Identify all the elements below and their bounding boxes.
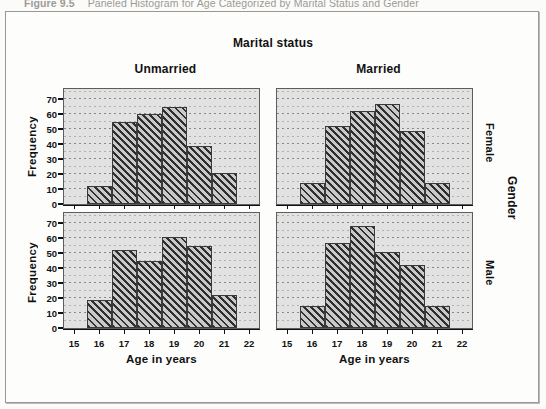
histogram-bar	[425, 306, 450, 328]
x-axis-tick-mark	[149, 205, 150, 209]
gender-title: Gender	[505, 176, 519, 246]
histogram-bar	[300, 183, 325, 204]
y-axis-top: 010203040506070	[23, 88, 63, 205]
histogram-bar	[375, 252, 400, 328]
y-axis-tick-label: 70	[46, 218, 57, 229]
x-axis-tick-mark	[387, 205, 388, 209]
figure-number: Figure 9.5	[24, 0, 75, 9]
x-axis-tick-mark	[462, 205, 463, 209]
x-axis-tick-mark	[199, 205, 200, 209]
histogram-bar	[375, 104, 400, 204]
bars-unmarried-male	[64, 213, 259, 328]
x-axis-tick-mark	[174, 205, 175, 209]
x-axis-tick-mark	[249, 329, 250, 334]
panel-unmarried-male	[63, 212, 260, 329]
x-axis-tick-label: 16	[307, 338, 318, 349]
y-axis-tick-label: 0	[52, 199, 57, 210]
histogram-bar	[162, 107, 187, 204]
x-axis-tick-label: 17	[332, 338, 343, 349]
x-axis-tick-mark	[174, 329, 175, 334]
histogram-bar	[325, 243, 350, 328]
x-axis-right: 1516171819202122	[276, 329, 473, 355]
x-axis-tick-label: 22	[244, 338, 255, 349]
y-axis-tick-label: 70	[46, 94, 57, 105]
panel-married-male	[276, 212, 473, 329]
x-axis-tick-label: 18	[144, 338, 155, 349]
histogram-bar	[212, 295, 237, 328]
x-axis-tick-mark	[387, 329, 388, 334]
panel-unmarried-female	[63, 88, 260, 205]
x-axis-tick-mark	[437, 205, 438, 209]
histogram-bar	[212, 173, 237, 204]
x-axis-tick-mark	[337, 205, 338, 209]
bars-married-male	[277, 213, 472, 328]
x-axis-tick-mark	[312, 205, 313, 209]
y-axis-tick-label: 60	[46, 233, 57, 244]
histogram-bar	[112, 250, 137, 328]
column-header-married: Married	[276, 62, 481, 76]
histogram-bar	[87, 300, 112, 328]
histogram-bar	[350, 226, 375, 328]
histogram-bar	[187, 246, 212, 328]
x-axis-tick-mark	[462, 329, 463, 334]
x-axis-tick-mark	[199, 329, 200, 334]
x-axis-tick-label: 21	[219, 338, 230, 349]
figure-title: Paneled Histogram for Age Categorized by…	[88, 0, 419, 9]
y-axis-tick-label: 50	[46, 248, 57, 259]
bars-married-female	[277, 89, 472, 204]
x-axis-tick-mark	[249, 205, 250, 209]
x-axis-tick-mark	[124, 205, 125, 209]
x-axis-label-left: Age in years	[63, 353, 260, 365]
y-axis-tick-label: 60	[46, 109, 57, 120]
x-axis-label-right: Age in years	[276, 353, 473, 365]
x-axis-tick-label: 19	[382, 338, 393, 349]
x-axis-tick-mark	[412, 329, 413, 334]
x-axis-tick-mark	[74, 329, 75, 334]
x-axis-tick-mark	[99, 329, 100, 334]
x-axis-tick-label: 19	[169, 338, 180, 349]
histogram-bar	[87, 186, 112, 204]
x-axis-tick-mark	[362, 205, 363, 209]
histogram-bar	[300, 306, 325, 328]
y-axis-tick-label: 30	[46, 278, 57, 289]
panel-married-female	[276, 88, 473, 205]
y-axis-tick-label: 50	[46, 124, 57, 135]
x-axis-tick-mark	[224, 329, 225, 334]
x-axis-line	[63, 205, 260, 206]
histogram-bar	[137, 261, 162, 328]
y-axis-tick-label: 30	[46, 154, 57, 165]
y-axis-tick-label: 0	[52, 323, 57, 334]
histogram-bar	[325, 126, 350, 204]
histogram-bar	[112, 122, 137, 204]
x-axis-line	[63, 329, 260, 330]
x-axis-tick-mark	[312, 329, 313, 334]
x-axis-tick-mark	[74, 205, 75, 209]
figure-page: Figure 9.5 Paneled Histogram for Age Cat…	[0, 0, 546, 409]
histogram-bar	[350, 111, 375, 204]
y-axis-tick-label: 10	[46, 308, 57, 319]
x-axis-tick-label: 17	[119, 338, 130, 349]
x-axis-tick-label: 18	[357, 338, 368, 349]
x-axis-inner-right	[276, 205, 473, 211]
x-axis-tick-label: 20	[407, 338, 418, 349]
y-axis-bottom: 010203040506070	[23, 212, 63, 329]
histogram-bar	[137, 114, 162, 204]
y-axis-tick-label: 20	[46, 293, 57, 304]
x-axis-tick-mark	[362, 329, 363, 334]
x-axis-tick-mark	[337, 329, 338, 334]
x-axis-tick-label: 15	[282, 338, 293, 349]
marital-status-title: Marital status	[0, 36, 546, 50]
x-axis-left: 1516171819202122	[63, 329, 260, 355]
histogram-bar	[400, 131, 425, 204]
x-axis-line	[276, 205, 473, 206]
x-axis-tick-mark	[437, 329, 438, 334]
histogram-bar	[425, 183, 450, 204]
x-axis-tick-mark	[287, 205, 288, 209]
x-axis-tick-label: 15	[69, 338, 80, 349]
row-header-female: Female	[484, 108, 496, 178]
histogram-bar	[400, 265, 425, 328]
column-header-unmarried: Unmarried	[63, 62, 268, 76]
x-axis-tick-mark	[99, 205, 100, 209]
x-axis-tick-mark	[287, 329, 288, 334]
bars-unmarried-female	[64, 89, 259, 204]
